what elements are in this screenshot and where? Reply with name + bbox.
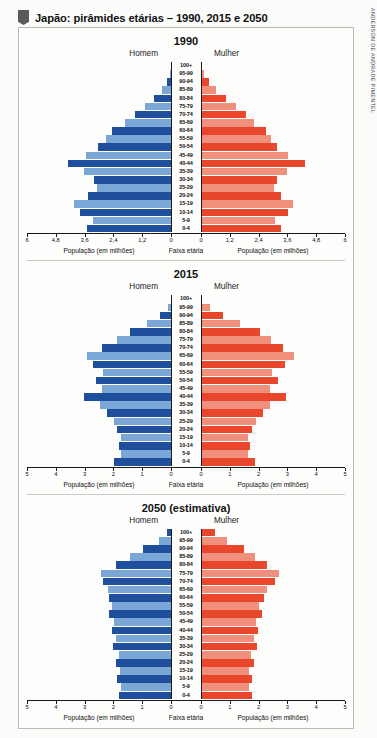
caption-population-male: População (em milhões) — [63, 481, 134, 488]
age-group-label: 40-44 — [171, 160, 201, 168]
male-bar — [86, 152, 171, 160]
age-group-label: 75-79 — [171, 103, 201, 111]
male-half — [27, 570, 171, 578]
female-bar — [201, 160, 305, 168]
x-axis-tick-label: 2 — [257, 471, 260, 477]
female-half — [201, 618, 345, 626]
age-group-label: 55-59 — [171, 602, 201, 610]
age-group-label: 70-74 — [171, 344, 201, 352]
pyramid-bars: 100+95-9990-9485-8980-8475-7970-7465-696… — [19, 62, 353, 232]
female-bar — [201, 320, 240, 328]
male-bar — [116, 635, 171, 643]
x-axis-tick-label: 3 — [286, 704, 289, 710]
female-half — [201, 111, 345, 119]
female-bar — [201, 336, 271, 344]
male-bar — [114, 458, 171, 466]
axis-captions: População (em milhões)Faixa etáriaPopula… — [27, 247, 345, 260]
female-bar — [201, 328, 260, 336]
panel-title: 2050 (estimativa) — [19, 495, 353, 516]
male-bar — [119, 692, 171, 700]
male-half — [27, 344, 171, 352]
age-group-label: 20-24 — [171, 659, 201, 667]
x-axis-tick-label: 0 — [169, 237, 172, 243]
male-bar — [101, 570, 171, 578]
x-axis-tick-label: 0 — [199, 704, 202, 710]
male-bar — [162, 86, 171, 94]
male-half — [27, 458, 171, 466]
female-bar — [201, 225, 281, 233]
female-bar — [201, 578, 275, 586]
male-bar — [74, 200, 171, 208]
female-bar — [201, 352, 294, 360]
male-half — [27, 209, 171, 217]
caption-age-group: Faixa etária — [169, 714, 203, 721]
male-half — [27, 184, 171, 192]
female-half — [201, 320, 345, 328]
male-half — [27, 95, 171, 103]
male-half — [27, 336, 171, 344]
legend-label-female: Mulher — [214, 49, 239, 58]
pyramid-row: 30-34 — [27, 409, 345, 417]
pyramid-row: 60-64 — [27, 361, 345, 369]
x-axis-tick-label: 5 — [343, 471, 346, 477]
centre-axis-left — [171, 529, 172, 699]
pyramid-row: 90-94 — [27, 78, 345, 86]
pyramid-row: 60-64 — [27, 594, 345, 602]
pyramid-row: 85-89 — [27, 86, 345, 94]
female-half — [201, 119, 345, 127]
pyramid-row: 65-69 — [27, 352, 345, 360]
age-group-label: 25-29 — [171, 418, 201, 426]
male-bar — [103, 369, 171, 377]
age-group-label: 55-59 — [171, 135, 201, 143]
age-group-label: 20-24 — [171, 426, 201, 434]
male-half — [27, 135, 171, 143]
female-bar — [201, 192, 281, 200]
age-group-label: 45-49 — [171, 618, 201, 626]
male-half — [27, 168, 171, 176]
age-group-label: 0-4 — [171, 692, 201, 700]
female-half — [201, 217, 345, 225]
pyramid-row: 25-29 — [27, 651, 345, 659]
male-bar — [145, 103, 171, 111]
female-half — [201, 442, 345, 450]
pyramid-row: 55-59 — [27, 135, 345, 143]
female-half — [201, 667, 345, 675]
male-half — [27, 635, 171, 643]
male-bar — [130, 328, 171, 336]
age-group-label: 20-24 — [171, 192, 201, 200]
x-axis-tick-label: 6 — [25, 237, 28, 243]
male-bar — [68, 160, 171, 168]
x-axis-tick-labels: 543210012345 — [27, 704, 345, 713]
pyramid-row: 100+ — [27, 62, 345, 70]
age-group-label: 70-74 — [171, 578, 201, 586]
female-half — [201, 594, 345, 602]
male-half — [27, 304, 171, 312]
male-half — [27, 377, 171, 385]
female-half — [201, 586, 345, 594]
pyramid-panel-2015: 2015HomemMulher100+95-9990-9485-8980-847… — [19, 260, 353, 493]
male-half — [27, 78, 171, 86]
pyramid-row: 35-39 — [27, 168, 345, 176]
age-group-label: 35-39 — [171, 168, 201, 176]
credit-attribution: ANDERSON DE ANDRADE PIMENTEL — [370, 8, 376, 113]
female-bar — [201, 377, 278, 385]
age-group-label: 85-89 — [171, 86, 201, 94]
age-group-label: 30-34 — [171, 409, 201, 417]
male-half — [27, 409, 171, 417]
male-bar — [94, 176, 171, 184]
male-half — [27, 529, 171, 537]
pyramid-bars: 100+95-9990-9485-8980-8475-7970-7465-696… — [19, 529, 353, 699]
male-bar — [96, 377, 171, 385]
female-half — [201, 602, 345, 610]
male-half — [27, 103, 171, 111]
centre-axis-right — [201, 295, 202, 465]
male-bar — [121, 683, 171, 691]
female-bar — [201, 78, 209, 86]
age-group-label: 10-14 — [171, 442, 201, 450]
x-axis-tick-label: 4 — [315, 704, 318, 710]
male-bar — [80, 209, 171, 217]
pyramid-row: 40-44 — [27, 627, 345, 635]
male-bar — [135, 111, 171, 119]
male-half — [27, 225, 171, 233]
male-half — [27, 537, 171, 545]
